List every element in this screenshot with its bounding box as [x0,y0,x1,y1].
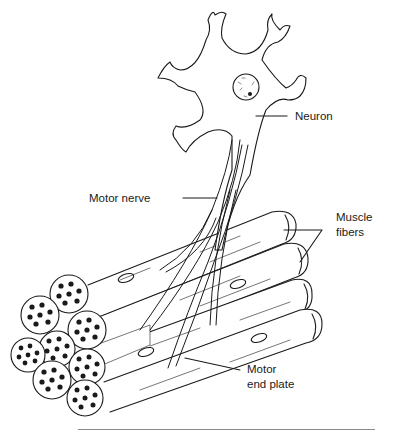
neuron-nucleus [233,74,259,100]
label-muscle-fibers-line1: Muscle [336,210,372,224]
label-motor-end-plate-line1: Motor [247,362,276,376]
label-neuron: Neuron [295,109,333,123]
label-motor-end-plate-line2: end plate [247,377,294,391]
figure-bottom-rule [78,429,375,430]
nucleolus [248,92,252,96]
label-muscle-fibers-line2: fibers [336,225,364,239]
label-motor-nerve: Motor nerve [89,191,150,205]
